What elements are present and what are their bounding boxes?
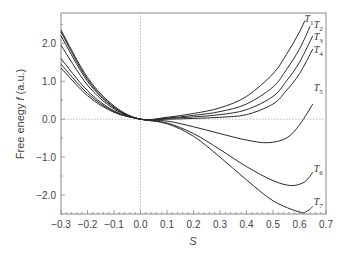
x-tick-label: 0.0 [134, 219, 148, 230]
curve-t2 [61, 26, 310, 120]
x-tick-label: 0.5 [266, 219, 280, 230]
x-axis-title: S [189, 235, 197, 247]
x-tick-label: 0.1 [160, 219, 174, 230]
curve-label-t6: T6 [314, 163, 324, 177]
x-tick-label: 0.6 [293, 219, 307, 230]
x-tick-label: −0.2 [78, 219, 98, 230]
curve-label-t1: T1 [304, 13, 314, 27]
curve-label-t4: T4 [314, 44, 324, 58]
curves [61, 21, 313, 213]
curve-t3 [61, 36, 313, 120]
curve-label-t5: T5 [314, 82, 324, 96]
x-tick-label: 0.2 [187, 219, 201, 230]
curve-t1 [61, 21, 305, 120]
y-axis-title-suffix: (a.u.) [14, 69, 26, 98]
x-tick-label: 0.7 [319, 219, 333, 230]
x-tick-label: −0.1 [104, 219, 124, 230]
y-tick-label: −2.0 [36, 190, 56, 201]
y-axis-title-prefix: Free enegy [14, 101, 26, 160]
curve-t4 [61, 45, 313, 120]
x-tick-label: 0.4 [240, 219, 254, 230]
x-axis-ticks: −0.3−0.2−0.10.00.10.20.30.40.50.60.7 [51, 210, 333, 230]
curve-t7 [61, 68, 313, 213]
y-tick-label: 0.0 [42, 114, 56, 125]
free-energy-chart: T1T2T3T4T5T6T7 −0.3−0.2−0.10.00.10.20.30… [0, 0, 346, 259]
y-tick-label: 2.0 [42, 38, 56, 49]
curve-label-t7: T7 [314, 196, 324, 210]
y-axis-title: Free enegy f (a.u.) [14, 69, 26, 160]
y-tick-label: −1.0 [36, 152, 56, 163]
x-tick-label: 0.3 [213, 219, 227, 230]
y-tick-label: 1.0 [42, 76, 56, 87]
x-tick-label: −0.3 [51, 219, 71, 230]
